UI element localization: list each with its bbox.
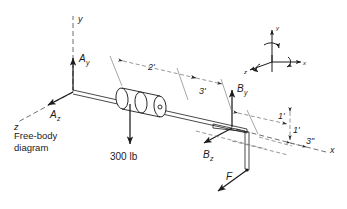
- triad-x-label: x: [302, 60, 307, 66]
- free-body-diagram-figure: y z x: [0, 0, 347, 209]
- dim-3in-line: [290, 143, 306, 147]
- load-300lb-label: 300 lb: [110, 151, 138, 162]
- reaction-az-subscript: z: [56, 115, 61, 122]
- reaction-az-arrow: [48, 92, 73, 105]
- triad-z-label: z: [243, 69, 247, 75]
- force-f-label: F: [226, 171, 233, 182]
- ext-line-crank: [247, 110, 258, 134]
- dim-2ft-group: 2': [123, 61, 196, 78]
- dim-2ft-line: [123, 61, 196, 78]
- dim-1ft-horizontal-group: 1': [238, 111, 287, 124]
- dim-3in-label: 3": [306, 136, 315, 146]
- projection-guides: [196, 131, 292, 155]
- reaction-ay-label: A: [78, 53, 86, 64]
- x-axis-label: x: [329, 145, 335, 155]
- ext-line-b: [221, 79, 232, 112]
- force-f-arrow: [218, 170, 247, 191]
- dim-1ft-vertical-label: 1': [293, 125, 300, 135]
- dim-3ft-label: 3': [199, 86, 206, 96]
- dim-3ft-line: [196, 78, 222, 84]
- triad-y-label: y: [275, 25, 280, 31]
- pulley-cylinder: [115, 87, 167, 117]
- coordinate-triad: y x z: [243, 25, 307, 75]
- dim-3in-group: 3": [290, 136, 315, 147]
- reaction-ay-subscript: y: [85, 59, 90, 67]
- dim-2ft-label: 2': [147, 62, 155, 72]
- reaction-by-label: B: [237, 83, 244, 94]
- reaction-az-label: A: [49, 109, 57, 120]
- y-axis-label: y: [77, 14, 83, 24]
- reaction-bz-subscript: z: [209, 155, 214, 162]
- reaction-by-subscript: y: [243, 89, 248, 97]
- guide-line-3: [259, 137, 292, 146]
- crank-arm: [213, 124, 249, 172]
- triad-z-axis: [250, 62, 272, 70]
- ext-line-pulley: [110, 56, 122, 86]
- triad-moment-z: [256, 64, 260, 72]
- dim-3ft-group: 3': [196, 78, 222, 96]
- guide-line-2: [232, 141, 288, 155]
- ext-line-mid: [177, 68, 188, 100]
- reaction-bz-arrow: [204, 128, 232, 143]
- reaction-bz-label: B: [203, 149, 210, 160]
- dim-1ft-horizontal-label: 1': [278, 111, 285, 121]
- diagram-canvas: y z x: [0, 0, 347, 209]
- main-coordinate-axes: [18, 16, 326, 152]
- figure-caption-line1: Free-body: [14, 130, 58, 141]
- figure-caption-line2: diagram: [14, 142, 48, 153]
- dim-1ft-vertical-group: 1': [290, 112, 300, 140]
